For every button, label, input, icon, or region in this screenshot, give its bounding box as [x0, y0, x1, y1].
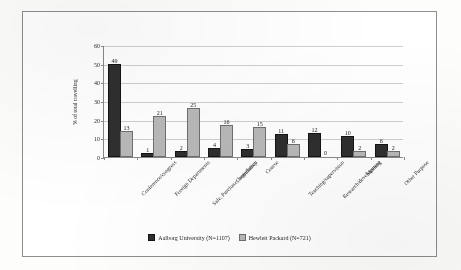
bar: 25 — [187, 108, 200, 157]
bar-value-label: 6 — [380, 138, 383, 144]
plot-area: 0102030405060 49131212254163151161201026… — [103, 46, 403, 158]
bar-value-label: 11 — [278, 128, 284, 134]
x-axis-category-label: Meeting — [366, 160, 383, 177]
bar: 13 — [120, 131, 133, 157]
bar: 2 — [353, 151, 366, 157]
y-axis-tick-label: 30 — [94, 99, 100, 105]
bar-value-label: 2 — [392, 145, 395, 151]
chart-figure-frame: % of total travelling 0102030405060 4913… — [22, 11, 437, 257]
bar: 21 — [153, 116, 166, 157]
bar-value-label: 6 — [292, 138, 295, 144]
bar: 2 — [387, 151, 400, 157]
bar-value-label: 2 — [358, 145, 361, 151]
legend-item[interactable]: Aalborg University (N=1107) — [148, 234, 229, 241]
y-axis-title: % of total travelling — [72, 79, 78, 124]
bar-group: 120 — [304, 46, 337, 157]
bar-value-label: 13 — [124, 125, 130, 131]
bar-group: 225 — [171, 46, 204, 157]
y-axis-tick-label: 50 — [94, 62, 100, 68]
bar-group: 116 — [271, 46, 304, 157]
bar: 6 — [287, 144, 300, 157]
bar-value-label: 49 — [112, 58, 118, 64]
bar-group: 315 — [237, 46, 270, 157]
y-axis-tick-label: 40 — [94, 80, 100, 86]
bar-value-label: 12 — [312, 127, 318, 133]
y-axis-tick-label: 10 — [94, 136, 100, 142]
legend-label: Aalborg University (N=1107) — [158, 235, 229, 241]
bar-group: 102 — [337, 46, 370, 157]
x-axis-category-label: Foreign Departments — [174, 160, 212, 198]
bar-value-label: 0 — [324, 150, 327, 156]
bar-value-label: 25 — [190, 102, 196, 108]
y-axis-tick-label: 60 — [94, 43, 100, 49]
y-axis-tick-label: 20 — [94, 118, 100, 124]
legend-item[interactable]: Hewlett Packard (N=721) — [239, 234, 311, 241]
bar-group: 62 — [371, 46, 404, 157]
scanned-page: % of total travelling 0102030405060 4913… — [0, 0, 461, 270]
y-axis-tick-label: 0 — [97, 155, 100, 161]
x-axis-category-label: Course — [265, 160, 280, 175]
x-axis-category-labels: Conference/congressForeign DepartmentsSa… — [103, 158, 403, 216]
bar-value-label: 3 — [246, 143, 249, 149]
bar-value-label: 2 — [180, 145, 183, 151]
x-axis-category-label: Other Purpose — [403, 160, 430, 187]
legend-swatch — [148, 234, 155, 241]
x-axis-category-label: Teaching/supervision — [308, 160, 346, 198]
bar-value-label: 15 — [257, 121, 263, 127]
x-axis-category-label: Consultancy — [235, 160, 259, 184]
bar-value-label: 10 — [345, 130, 351, 136]
legend-swatch — [239, 234, 246, 241]
bar-group: 121 — [137, 46, 170, 157]
chart-legend: Aalborg University (N=1107)Hewlett Packa… — [23, 234, 436, 241]
bar-value-label: 21 — [157, 110, 163, 116]
bar: 16 — [220, 125, 233, 157]
bar-value-label: 16 — [224, 119, 230, 125]
bar-value-label: 4 — [213, 142, 216, 148]
bar: 15 — [253, 127, 266, 157]
bar: 12 — [308, 133, 321, 157]
bar-group: 416 — [204, 46, 237, 157]
legend-label: Hewlett Packard (N=721) — [249, 235, 311, 241]
x-axis-tick-mark — [404, 157, 405, 160]
bar-value-label: 1 — [146, 147, 149, 153]
bar-group: 4913 — [104, 46, 137, 157]
